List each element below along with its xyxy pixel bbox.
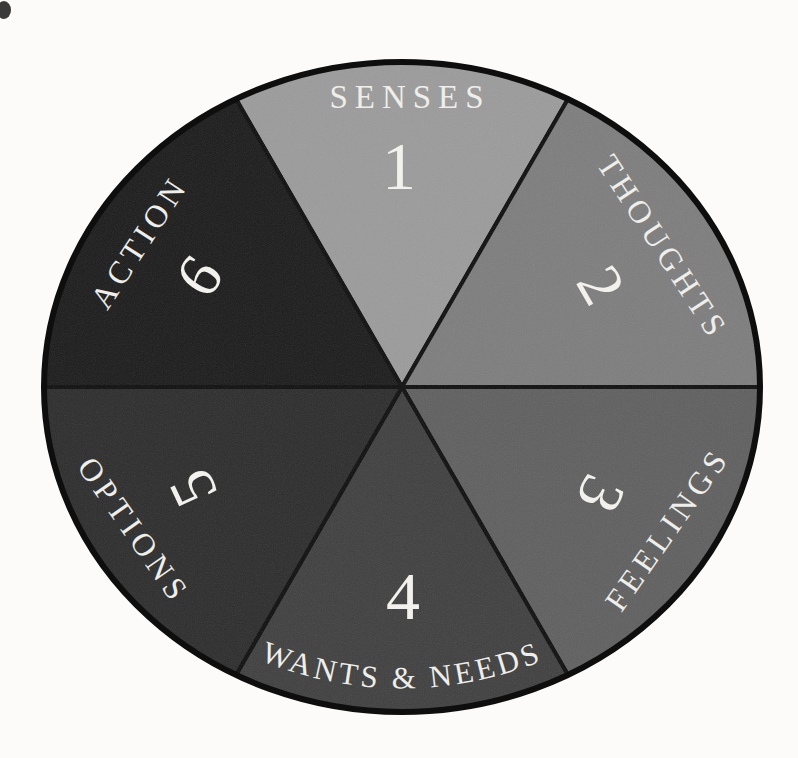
segment-4-number: 4 (386, 558, 420, 634)
scan-artifact (0, 1, 11, 19)
segment-senses-label: SENSES (329, 79, 490, 115)
awareness-wheel-diagram: SENSES THOUGHTS FEELINGS WANTS & NEEDS O… (0, 0, 798, 758)
segment-1-number: 1 (382, 128, 416, 204)
scanned-page: SENSES THOUGHTS FEELINGS WANTS & NEEDS O… (0, 0, 798, 758)
